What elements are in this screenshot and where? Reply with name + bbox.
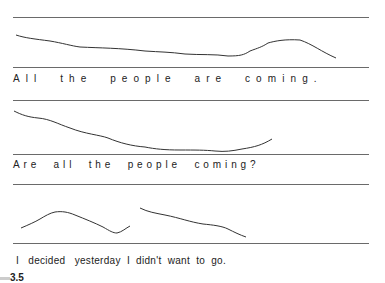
contour-clause-1 xyxy=(21,212,130,233)
sentence-statement: All the people are coming. xyxy=(13,73,323,84)
sentence-question: Are all the people coming? xyxy=(13,159,260,170)
contour-clause-2 xyxy=(140,208,246,237)
contour-statement xyxy=(16,35,336,58)
figure-marker xyxy=(0,277,10,280)
contour-question xyxy=(14,111,272,151)
figure-label: 3.5 xyxy=(10,272,24,283)
sentence-ambiguous: I decided yesterday I didn't want to go. xyxy=(16,255,226,266)
